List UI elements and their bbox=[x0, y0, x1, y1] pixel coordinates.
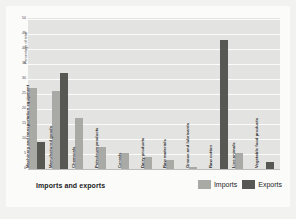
bar-exports bbox=[266, 162, 274, 170]
bar-exports bbox=[60, 73, 68, 169]
bar-imports bbox=[75, 118, 83, 169]
legend-swatch bbox=[198, 180, 211, 189]
category-label: Cereals bbox=[117, 153, 122, 168]
category-label: Petroleum products bbox=[94, 128, 99, 168]
category-label: Raw materials bbox=[162, 139, 167, 168]
legend-swatch bbox=[242, 180, 255, 189]
bar-imports bbox=[52, 91, 60, 169]
legend-label: Imports bbox=[214, 181, 237, 188]
category-label: Manufactured goods bbox=[48, 126, 53, 168]
category-label: Vegetable food products bbox=[254, 118, 259, 168]
bar-exports bbox=[37, 142, 45, 169]
category-label: Live animals bbox=[231, 142, 236, 168]
category-label: Dairy products bbox=[140, 138, 145, 168]
bar-imports bbox=[166, 160, 174, 169]
plot-area: 05101520253035404550 Percentage of total… bbox=[28, 18, 280, 170]
bar-imports bbox=[235, 153, 243, 170]
chart-figure: 05101520253035404550 Percentage of total… bbox=[6, 6, 290, 207]
y-axis-tick-label: 50 bbox=[22, 17, 26, 21]
bar-exports bbox=[220, 40, 228, 169]
chart-title: Imports and exports bbox=[36, 182, 105, 189]
legend-item: Imports bbox=[198, 180, 237, 189]
bar-group bbox=[258, 162, 281, 170]
category-label: Grease and lubricants bbox=[185, 123, 190, 168]
legend-item: Exports bbox=[242, 180, 282, 189]
chart-legend: ImportsExports bbox=[198, 180, 282, 189]
x-axis-baseline bbox=[28, 169, 280, 170]
category-label: Machinery and transportation equipment bbox=[25, 85, 30, 168]
category-label: Chemicals bbox=[71, 147, 76, 168]
legend-label: Exports bbox=[258, 181, 282, 188]
category-label: Raw cotton bbox=[208, 145, 213, 168]
y-axis-tick-label: 30 bbox=[22, 77, 26, 81]
bar-groups: Machinery and transportation equipmentMa… bbox=[28, 18, 280, 170]
bar-imports bbox=[29, 88, 37, 169]
